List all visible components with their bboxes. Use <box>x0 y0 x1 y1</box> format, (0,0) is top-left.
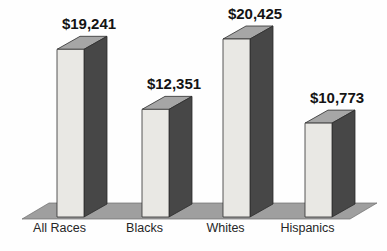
category-label: All Races <box>33 221 86 235</box>
category-label: Whites <box>206 221 244 235</box>
bar-group-all-races: $19,241 All Races <box>33 15 116 235</box>
bar-front-face <box>305 123 332 217</box>
category-label: Hispanics <box>280 221 334 235</box>
bar-front-face <box>57 49 84 217</box>
bar-side-face <box>250 26 273 217</box>
bar-group-whites: $20,425 Whites <box>206 5 282 235</box>
value-label: $20,425 <box>228 5 282 22</box>
value-label: $19,241 <box>62 15 116 32</box>
value-label: $12,351 <box>147 75 201 92</box>
bar-side-face <box>84 36 107 217</box>
bar-chart-3d: $19,241 All Races $12,351 Blacks $20,425… <box>0 0 387 251</box>
bar-front-face <box>142 109 169 217</box>
bar-front-face <box>223 39 250 217</box>
scanned-3d-bar-chart: $19,241 All Races $12,351 Blacks $20,425… <box>0 0 387 251</box>
category-label: Blacks <box>126 221 163 235</box>
bar-side-face <box>332 110 355 217</box>
bar-side-face <box>169 96 192 217</box>
value-label: $10,773 <box>310 89 364 106</box>
